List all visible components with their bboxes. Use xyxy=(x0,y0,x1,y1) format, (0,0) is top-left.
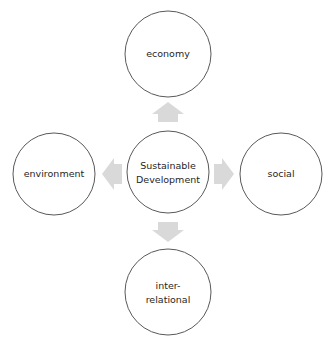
arrow-up-to-economy xyxy=(152,102,184,122)
svg-text:relational: relational xyxy=(146,294,191,305)
node-inter-relational: inter- relational xyxy=(125,249,211,335)
svg-text:inter-: inter- xyxy=(156,280,181,291)
node-social-label: social xyxy=(267,168,294,179)
svg-text:Sustainable: Sustainable xyxy=(140,160,196,171)
svg-text:environment: environment xyxy=(24,168,85,179)
node-sustainable-development: Sustainable Development xyxy=(127,131,209,213)
node-environment: environment xyxy=(13,133,95,215)
center-label-line-1: Sustainable xyxy=(140,160,196,171)
node-economy: economy xyxy=(125,11,211,97)
sustainable-development-diagram: economy environment Sustainable Developm… xyxy=(0,0,332,345)
node-environment-label: environment xyxy=(24,168,85,179)
svg-text:economy: economy xyxy=(146,48,190,59)
center-label-line-2: Development xyxy=(136,174,200,185)
node-economy-label: economy xyxy=(146,48,190,59)
svg-text:social: social xyxy=(267,168,294,179)
arrow-left-to-environment xyxy=(102,158,122,190)
arrow-right-to-social xyxy=(214,158,234,190)
node-social: social xyxy=(240,133,322,215)
node-inter-relational-label-line-1: inter- xyxy=(156,280,181,291)
svg-text:Development: Development xyxy=(136,174,200,185)
arrow-down-to-inter-relational xyxy=(152,222,184,242)
node-inter-relational-label-line-2: relational xyxy=(146,294,191,305)
